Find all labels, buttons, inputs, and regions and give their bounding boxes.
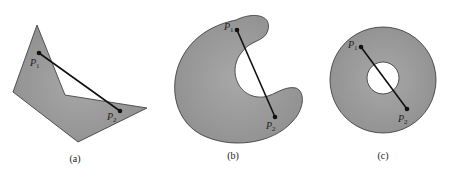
panel-b: P1 P2 (b) bbox=[175, 15, 303, 162]
caption-b: (b) bbox=[227, 150, 239, 162]
nonconvex-polygon bbox=[13, 25, 147, 142]
point-p2 bbox=[405, 107, 410, 112]
point-p1 bbox=[37, 51, 42, 56]
annulus-shape bbox=[330, 27, 436, 133]
point-p1 bbox=[235, 28, 240, 33]
point-p1 bbox=[359, 45, 364, 50]
panel-c: P1 P2 (c) bbox=[330, 27, 436, 162]
diagram-canvas: P1 P2 (a) P1 P2 (b) P1 P2 (c) bbox=[0, 0, 453, 177]
point-p2 bbox=[118, 109, 123, 114]
panel-a: P1 P2 (a) bbox=[13, 25, 147, 165]
caption-c: (c) bbox=[377, 150, 388, 162]
caption-a: (a) bbox=[69, 153, 80, 165]
point-p2 bbox=[273, 115, 278, 120]
